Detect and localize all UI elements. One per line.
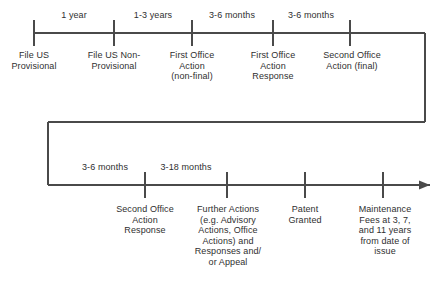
row-one-event-label-2: First Office Action (non-final): [155, 50, 229, 82]
row-one-event-label-3: First Office Action Response: [236, 50, 310, 82]
interval-text: 1-3 years: [134, 10, 172, 21]
timeline-arrowhead: [419, 180, 430, 189]
interval-text: 3-6 months: [209, 10, 255, 21]
row-one-interval-label-3: 3-6 months: [311, 10, 357, 21]
interval-text: 3-18 months: [160, 162, 211, 173]
interval-text: 1 year: [61, 10, 87, 21]
interval-text: 3-6 months: [82, 162, 128, 173]
row-one-event-label-0: File US Provisional: [0, 50, 69, 71]
row-one-event-label-1: File US Non- Provisional: [76, 50, 152, 71]
row-two-event-label-3: Maintenance Fees at 3, 7, and 11 years f…: [344, 204, 426, 257]
row-one-interval-label-0: 1 year: [74, 10, 100, 21]
patent-timeline-diagram: 1 year1-3 years3-6 months3-6 monthsFile …: [0, 0, 438, 287]
row-one-interval-label-2: 3-6 months: [232, 10, 278, 21]
row-two-event-label-0: Second Office Action Response: [103, 204, 187, 236]
row-two-event-label-2: Patent Granted: [273, 204, 337, 225]
arrowhead-shape: [419, 180, 430, 189]
row-two-interval-label-0: 3-6 months: [105, 162, 151, 173]
row-one-event-label-4: Second Office Action (final): [309, 50, 395, 71]
row-one-interval-label-1: 1-3 years: [153, 10, 191, 21]
interval-text: 3-6 months: [288, 10, 334, 21]
row-two-event-label-1: Further Actions (e.g. Advisory Actions, …: [183, 204, 273, 268]
row-two-interval-label-1: 3-18 months: [186, 162, 237, 173]
